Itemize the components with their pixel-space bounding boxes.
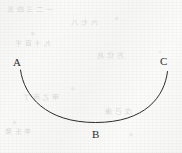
concave-arc-path [21,70,168,123]
point-label-c: C [160,56,167,67]
figure-canvas: 一 二 三 四 五 六 七 八 九 十 百 千 万 亿 兆 甲 乙 丙 丁 戊 … [0,0,182,153]
point-label-b: B [92,129,99,140]
arc-diagram-svg [0,0,182,153]
point-label-a: A [13,57,21,68]
